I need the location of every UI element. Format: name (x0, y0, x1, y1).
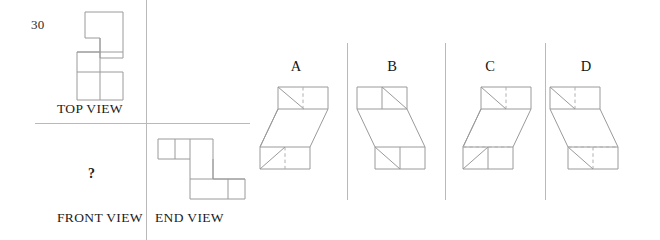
top-view-label: TOP VIEW (57, 101, 123, 117)
option-label-b: B (372, 58, 412, 75)
option-separator-1 (347, 43, 348, 200)
option-label-a: A (276, 58, 316, 75)
vertical-divider (146, 0, 147, 240)
option-separator-3 (545, 43, 546, 200)
option-label-c: C (470, 58, 510, 75)
question-number: 30 (31, 17, 44, 33)
option-label-d: D (566, 58, 606, 75)
horizontal-divider (35, 123, 250, 124)
end-view-drawing (155, 135, 250, 205)
top-view-drawing (60, 10, 130, 105)
option-drawing-b[interactable] (355, 85, 435, 175)
end-view-label: END VIEW (155, 210, 224, 226)
option-drawing-d[interactable] (548, 85, 633, 175)
worksheet-canvas: 30 TOP VIEW ? FRONT VIEW E (0, 0, 660, 240)
option-drawing-c[interactable] (453, 85, 533, 175)
option-separator-2 (445, 43, 446, 200)
front-view-question-mark: ? (88, 166, 95, 182)
option-drawing-a[interactable] (258, 85, 338, 175)
front-view-label: FRONT VIEW (57, 210, 143, 226)
